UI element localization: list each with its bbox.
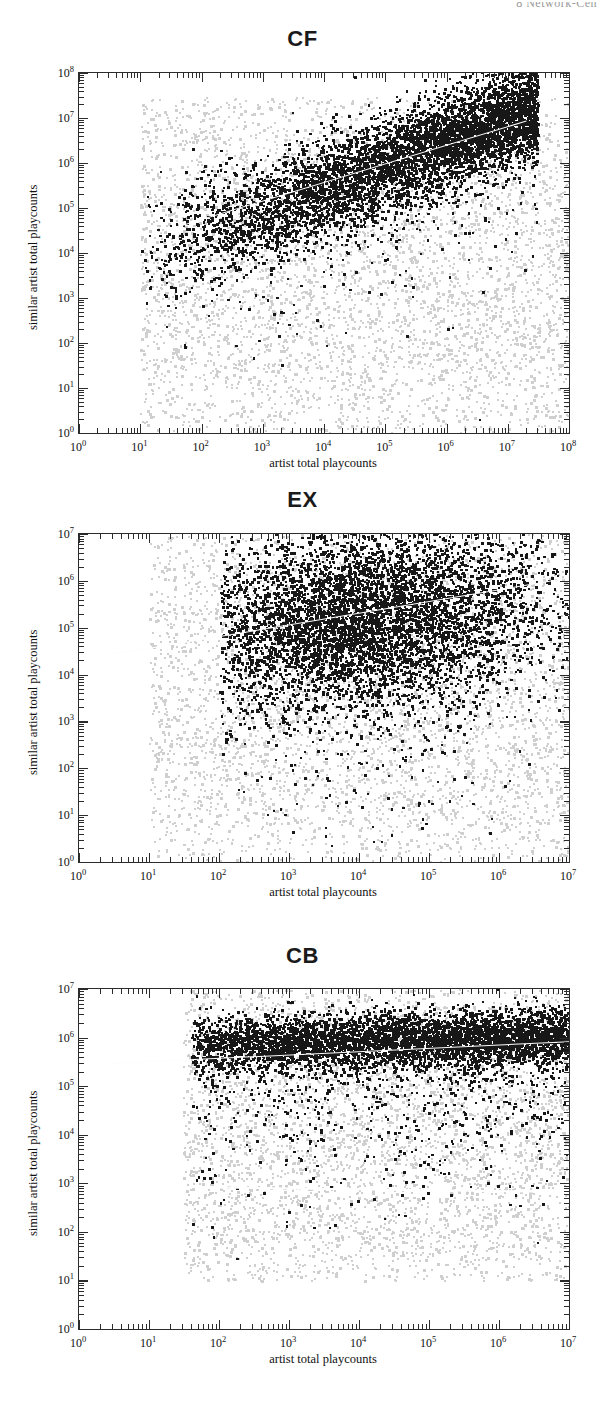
x-tick-label: 107 [554, 1334, 582, 1351]
x-tick-label: 105 [414, 867, 442, 884]
x-tick-label: 103 [248, 438, 276, 455]
x-axis-label: artist total playcounts [78, 885, 568, 900]
y-tick-label: 101 [44, 1271, 74, 1288]
x-tick-label: 106 [432, 438, 460, 455]
axis-ticks [79, 73, 569, 433]
x-tick-label: 107 [554, 867, 582, 884]
y-tick-label: 103 [44, 289, 74, 306]
x-tick-label: 105 [414, 1334, 442, 1351]
y-tick-label: 107 [44, 525, 74, 542]
y-tick-label: 107 [44, 109, 74, 126]
y-tick-label: 106 [44, 1029, 74, 1046]
y-tick-label: 100 [44, 853, 74, 870]
y-tick-label: 102 [44, 759, 74, 776]
y-tick-label: 101 [44, 379, 74, 396]
x-tick-label: 104 [344, 1334, 372, 1351]
panel-title: CF [0, 26, 605, 52]
y-tick-label: 100 [44, 1320, 74, 1337]
y-tick-label: 107 [44, 980, 74, 997]
plot-area [78, 72, 570, 434]
x-tick-label: 107 [493, 438, 521, 455]
y-tick-label: 108 [44, 64, 74, 81]
x-tick-label: 105 [370, 438, 398, 455]
running-header: 8 Network-Cen [0, 0, 605, 11]
y-tick-label: 101 [44, 806, 74, 823]
y-tick-label: 102 [44, 1223, 74, 1240]
plot-area [78, 988, 570, 1330]
y-tick-label: 104 [44, 666, 74, 683]
y-tick-label: 103 [44, 712, 74, 729]
x-tick-label: 101 [134, 867, 162, 884]
y-tick-label: 105 [44, 619, 74, 636]
x-tick-label: 104 [309, 438, 337, 455]
y-tick-label: 104 [44, 1126, 74, 1143]
y-tick-label: 105 [44, 199, 74, 216]
y-tick-label: 103 [44, 1174, 74, 1191]
x-tick-label: 101 [125, 438, 153, 455]
x-tick-label: 102 [204, 867, 232, 884]
x-tick-label: 104 [344, 867, 372, 884]
x-tick-label: 102 [204, 1334, 232, 1351]
x-tick-label: 106 [484, 1334, 512, 1351]
y-tick-label: 106 [44, 154, 74, 171]
x-axis-label: artist total playcounts [78, 456, 568, 471]
x-tick-label: 103 [274, 867, 302, 884]
axis-ticks [79, 534, 569, 862]
y-tick-label: 105 [44, 1077, 74, 1094]
y-axis-label: similar artist total playcounts [26, 185, 41, 330]
x-tick-label: 103 [274, 1334, 302, 1351]
x-tick-label: 101 [134, 1334, 162, 1351]
x-axis-label: artist total playcounts [78, 1352, 568, 1367]
y-tick-label: 106 [44, 572, 74, 589]
y-axis-label: similar artist total playcounts [26, 1091, 41, 1236]
panel-title: CB [0, 943, 605, 969]
y-tick-label: 100 [44, 424, 74, 441]
x-tick-label: 102 [187, 438, 215, 455]
y-tick-label: 104 [44, 244, 74, 261]
panel-title: EX [0, 487, 605, 513]
y-axis-label: similar artist total playcounts [26, 630, 41, 775]
plot-area [78, 533, 570, 863]
y-tick-label: 102 [44, 334, 74, 351]
x-tick-label: 108 [554, 438, 582, 455]
axis-ticks [79, 989, 569, 1329]
x-tick-label: 106 [484, 867, 512, 884]
